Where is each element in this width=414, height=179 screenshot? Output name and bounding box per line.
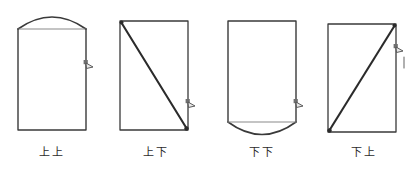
diagram-rectangle-with-diagonal-up	[312, 0, 414, 146]
arrow-marker-right-upper	[84, 60, 93, 69]
figure-caption-2: 上下	[104, 146, 208, 160]
seam-end-top	[120, 21, 124, 25]
arrow-marker-right-upper-with-tick	[394, 44, 404, 68]
diagonal-seam-line	[121, 22, 187, 129]
seam-end-bottom	[327, 128, 331, 132]
diagonal-seam-line	[329, 25, 395, 131]
figure-caption-3: 下下	[210, 146, 314, 160]
figure-caption-4: 下上	[312, 146, 414, 160]
rectangle-body	[228, 21, 296, 122]
diagram-rectangle-with-bottom-arc	[210, 0, 314, 146]
marker-arrowhead	[188, 102, 195, 108]
figure-item-1: 上上	[0, 0, 104, 179]
figure-panel: 上上 上下	[0, 0, 414, 179]
marker-arrowhead	[296, 102, 303, 108]
figure-item-3: 下下	[210, 0, 314, 179]
seam-end-top	[393, 24, 397, 28]
diagram-rectangle-with-diagonal-down	[104, 0, 208, 146]
figure-caption-1: 上上	[0, 146, 104, 160]
arrow-marker-right-lower	[186, 99, 195, 108]
figure-item-4: 下上	[312, 0, 414, 179]
figure-item-2: 上下	[104, 0, 208, 179]
marker-arrowhead	[396, 47, 403, 53]
seam-end-bottom	[184, 126, 188, 130]
bottom-arc	[228, 122, 296, 135]
marker-arrowhead	[86, 63, 93, 69]
top-arc	[18, 17, 86, 29]
arrow-marker-right-lower	[294, 99, 303, 108]
rectangle-body	[18, 29, 86, 130]
diagram-rectangle-with-top-arc	[0, 0, 104, 146]
